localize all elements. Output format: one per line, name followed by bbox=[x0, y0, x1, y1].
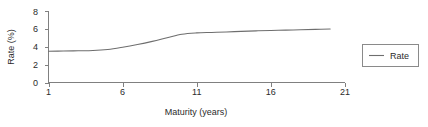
x-tick-label: 21 bbox=[340, 87, 350, 97]
x-axis-tick-labels: 16111621 bbox=[46, 87, 350, 97]
line-chart: Rate (%) 02468 16111621 Maturity (years)… bbox=[0, 0, 428, 127]
y-axis-tick-labels: 02468 bbox=[33, 7, 38, 89]
x-axis-tick-marks bbox=[50, 83, 346, 87]
legend: Rate bbox=[363, 45, 419, 67]
y-axis-tick-marks bbox=[45, 12, 49, 84]
x-axis-title: Maturity (years) bbox=[165, 107, 228, 117]
y-tick-label: 8 bbox=[33, 7, 38, 17]
y-tick-label: 0 bbox=[33, 78, 38, 88]
y-tick-label: 2 bbox=[33, 60, 38, 70]
legend-label-rate: Rate bbox=[390, 51, 409, 61]
chart-figure: Rate (%) 02468 16111621 Maturity (years)… bbox=[0, 0, 428, 127]
y-tick-label: 6 bbox=[33, 24, 38, 34]
y-tick-label: 4 bbox=[33, 42, 38, 52]
x-tick-label: 11 bbox=[192, 87, 201, 97]
x-tick-label: 1 bbox=[46, 87, 51, 97]
series-line-rate bbox=[49, 29, 331, 51]
x-tick-label: 16 bbox=[266, 87, 276, 97]
x-tick-label: 6 bbox=[120, 87, 125, 97]
y-axis-title: Rate (%) bbox=[6, 29, 16, 65]
